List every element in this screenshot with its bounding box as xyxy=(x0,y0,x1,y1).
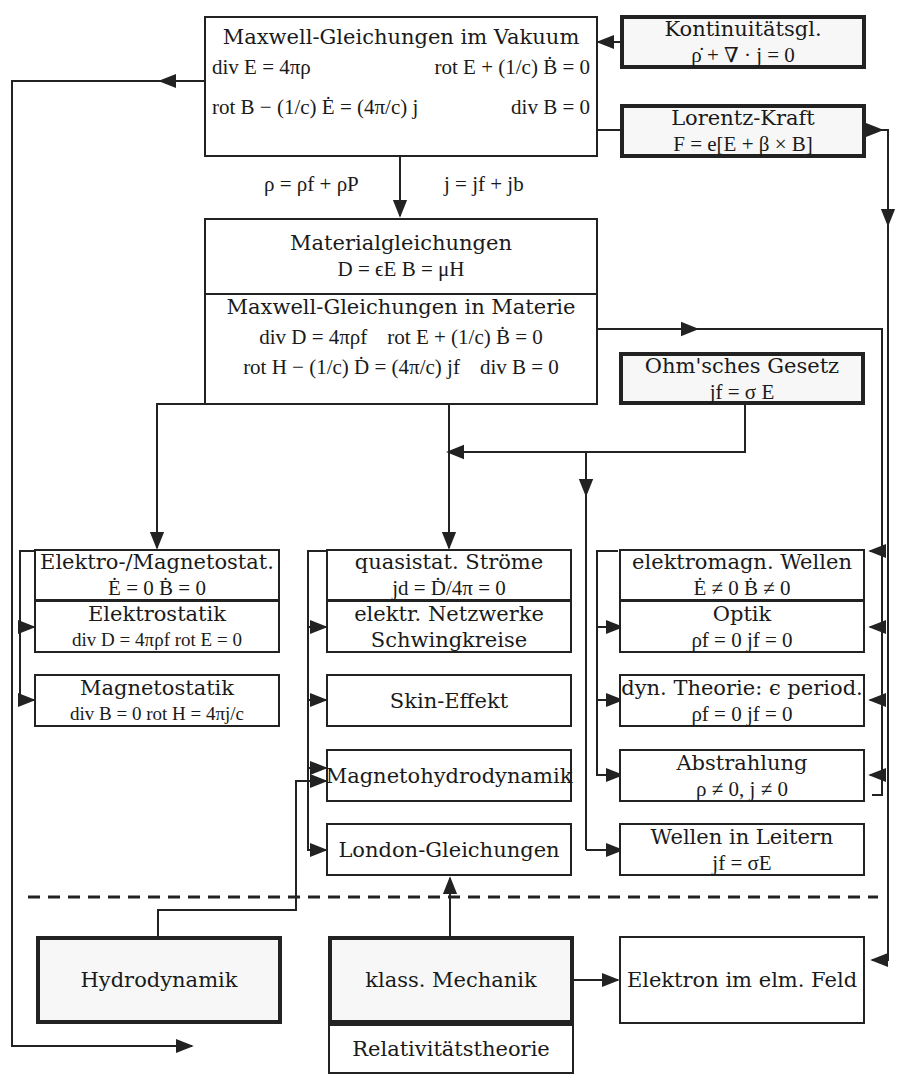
box-wellen-leiter: Wellen in Leitern jf = σE xyxy=(619,823,865,876)
lorentz-title: Lorentz-Kraft xyxy=(671,105,815,131)
box-elektro-magnetostat: Elektro-/Magnetostat. Ė = 0 Ḃ = 0 xyxy=(34,549,280,601)
eq-rot-h: rot H − (1/c) Ḋ = (4π/c) jf xyxy=(243,354,460,380)
box-dyn-theorie: dyn. Theorie: ϵ period. ρf = 0 jf = 0 xyxy=(619,674,865,727)
netzwerke-title: elektr. Netzwerke xyxy=(354,601,544,627)
quasistat-title: quasistat. Ströme xyxy=(355,549,543,575)
eq-rot-e-materie: rot E + (1/c) Ḃ = 0 xyxy=(387,324,543,350)
box-quasistat: quasistat. Ströme jd = Ḋ/4π = 0 xyxy=(326,549,572,601)
box-magnetostatik: Magnetostatik div B = 0 rot H = 4πj/c xyxy=(34,674,280,727)
eq-div-b: div B = 0 xyxy=(511,94,590,120)
material-title: Materialgleichungen xyxy=(290,230,512,256)
eq-div-d: div D = 4πρf xyxy=(259,324,367,350)
box-klass-mechanik: klass. Mechanik xyxy=(328,936,574,1024)
optik-title: Optik xyxy=(713,601,772,627)
eq-rot-b: rot B − (1/c) Ė = (4π/c) j xyxy=(212,94,418,120)
ohm-title: Ohm'sches Gesetz xyxy=(645,353,839,379)
hydrodynamik-title: Hydrodynamik xyxy=(80,967,237,993)
dyn-theorie-title: dyn. Theorie: ϵ period. xyxy=(621,675,863,701)
eq-div-b-materie: div B = 0 xyxy=(480,354,559,380)
abstrahlung-eq: ρ ≠ 0, j ≠ 0 xyxy=(696,776,788,802)
elektro-magnetostat-eq: Ė = 0 Ḃ = 0 xyxy=(108,575,206,601)
wellen-leiter-eq: jf = σE xyxy=(712,850,771,876)
mhd-title: Magnetohydrodynamik xyxy=(326,763,573,789)
dyn-theorie-eq: ρf = 0 jf = 0 xyxy=(691,701,792,727)
schwingkreise-title: Schwingkreise xyxy=(371,627,527,653)
box-mhd: Magnetohydrodynamik xyxy=(326,749,572,802)
kontinuitaet-title: Kontinuitätsgl. xyxy=(664,16,821,42)
wellen-leiter-title: Wellen in Leitern xyxy=(651,824,834,850)
wellen-eq: Ė ≠ 0 Ḃ ≠ 0 xyxy=(693,575,790,601)
eq-div-e: div E = 4πρ xyxy=(212,54,311,80)
box-relativitaet: Relativitätstheorie xyxy=(328,1024,574,1074)
box-netzwerke: elektr. Netzwerke Schwingkreise xyxy=(326,600,572,653)
relativitaet-title: Relativitätstheorie xyxy=(352,1036,550,1062)
connector-lines xyxy=(0,0,900,1081)
box-skin-effekt: Skin-Effekt xyxy=(326,674,572,727)
quasistat-eq: jd = Ḋ/4π = 0 xyxy=(392,575,506,601)
wellen-title: elektromagn. Wellen xyxy=(632,549,852,575)
lorentz-eq: F = e[E + β × B] xyxy=(673,131,813,157)
skin-title: Skin-Effekt xyxy=(390,688,508,714)
magnetostatik-eq: div B = 0 rot H = 4πj/c xyxy=(70,701,244,727)
label-j-split: j = jf + jb xyxy=(444,172,524,197)
london-title: London-Gleichungen xyxy=(338,837,559,863)
box-lorentz-kraft: Lorentz-Kraft F = e[E + β × B] xyxy=(620,104,866,158)
elektrostatik-title: Elektrostatik xyxy=(88,601,226,627)
box-elektromagn-wellen: elektromagn. Wellen Ė ≠ 0 Ḃ ≠ 0 xyxy=(619,549,865,601)
box-abstrahlung: Abstrahlung ρ ≠ 0, j ≠ 0 xyxy=(619,749,865,802)
box-london: London-Gleichungen xyxy=(326,823,572,876)
elektrostatik-eq: div D = 4πρf rot E = 0 xyxy=(72,627,242,653)
mechanik-title: klass. Mechanik xyxy=(365,967,537,993)
elektro-magnetostat-title: Elektro-/Magnetostat. xyxy=(40,549,274,575)
eq-rot-e: rot E + (1/c) Ḃ = 0 xyxy=(435,54,591,80)
box-optik: Optik ρf = 0 jf = 0 xyxy=(619,600,865,653)
optik-eq: ρf = 0 jf = 0 xyxy=(691,627,792,653)
box-hydrodynamik: Hydrodynamik xyxy=(36,936,282,1024)
elektron-title: Elektron im elm. Feld xyxy=(627,967,857,993)
box-maxwell-vakuum: Maxwell-Gleichungen im Vakuum div E = 4π… xyxy=(204,16,598,157)
box-ohm: Ohm'sches Gesetz jf = σ E xyxy=(619,352,865,405)
magnetostatik-title: Magnetostatik xyxy=(80,675,234,701)
box-elektrostatik: Elektrostatik div D = 4πρf rot E = 0 xyxy=(34,600,280,653)
maxwell-vakuum-title: Maxwell-Gleichungen im Vakuum xyxy=(223,24,580,50)
box-materialgleichungen: Materialgleichungen D = ϵE B = μH Maxwel… xyxy=(204,218,598,405)
label-rho-split: ρ = ρf + ρP xyxy=(264,172,359,197)
box-kontinuitaet: Kontinuitätsgl. ρ̇ + ∇ · j = 0 xyxy=(620,15,866,69)
box-elektron-feld: Elektron im elm. Feld xyxy=(619,936,865,1024)
kontinuitaet-eq: ρ̇ + ∇ · j = 0 xyxy=(691,42,795,68)
ohm-eq: jf = σ E xyxy=(710,379,775,405)
material-eq: D = ϵE B = μH xyxy=(338,256,465,282)
abstrahlung-title: Abstrahlung xyxy=(676,750,807,776)
maxwell-materie-title: Maxwell-Gleichungen in Materie xyxy=(227,294,576,320)
